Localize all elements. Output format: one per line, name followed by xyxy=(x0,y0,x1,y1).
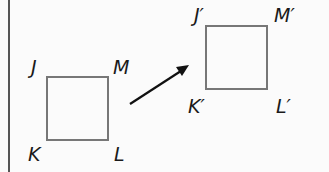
label-j-prime: J′ xyxy=(194,6,204,25)
label-m-prime: M′ xyxy=(274,6,295,25)
diagram-canvas: J M K L J′ M′ K′ L′ xyxy=(0,0,329,172)
label-l-prime: L′ xyxy=(276,97,291,116)
square-jklm-prime xyxy=(205,25,268,90)
label-k-prime: K′ xyxy=(188,97,205,116)
